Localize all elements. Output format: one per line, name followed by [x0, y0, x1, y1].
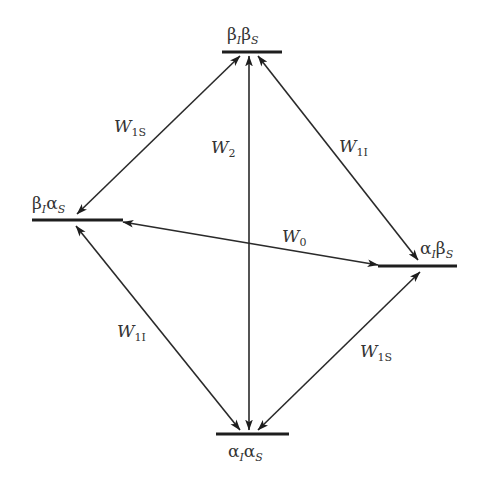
transition-label-w1s-top-left: W1S	[114, 116, 146, 139]
level-label-top: βIβS	[227, 24, 259, 47]
transition-label-w2: W2	[211, 137, 235, 160]
transition-label-w1i-top-right: W1I	[339, 136, 368, 159]
transition-w1s-right-bottom	[258, 272, 420, 430]
transition-w0-left-right	[123, 222, 378, 265]
transition-label-w1i-left-bottom: W1I	[117, 321, 146, 344]
transition-w1i-left-bottom	[76, 226, 240, 430]
level-label-bottom: αIαS	[228, 441, 263, 464]
transition-label-w1s-right-bottom: W1S	[360, 341, 392, 364]
transition-label-w0: W0	[282, 226, 306, 249]
transition-w1s-top-left	[77, 56, 240, 214]
level-label-right: αIβS	[420, 238, 454, 261]
energy-level-diagram: βIβS βIαS αIβS αIαS W1S W2 W1I W0 W1I W1…	[0, 0, 481, 488]
level-label-left: βIαS	[32, 193, 66, 216]
